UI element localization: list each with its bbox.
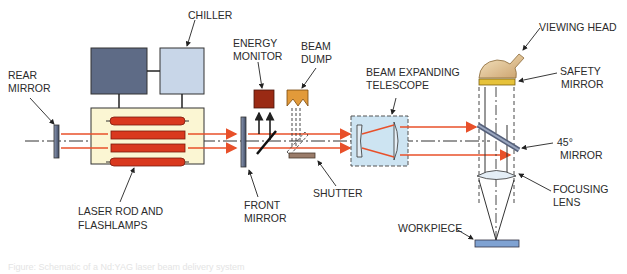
laser-system-diagram: CHILLER REAR MIRROR LASER ROD AND FLASHL… xyxy=(0,0,627,274)
label-focusing-lens-2: LENS xyxy=(553,196,580,208)
label-rear-mirror-2: MIRROR xyxy=(8,82,51,94)
label-workpiece: WORKPIECE xyxy=(398,222,462,234)
label-telescope-2: TELESCOPE xyxy=(366,79,429,91)
label-45-mirror-2: MIRROR xyxy=(560,149,603,161)
focusing-lens xyxy=(477,171,516,180)
chiller-box xyxy=(160,48,204,94)
label-safety-mirror-1: SAFETY xyxy=(560,65,601,77)
label-laser-rod-2: FLASHLAMPS xyxy=(78,219,147,231)
label-chiller: CHILLER xyxy=(188,9,233,21)
label-45-mirror-1: 45° xyxy=(557,136,573,148)
shutter xyxy=(289,153,315,158)
laser-rod-lower xyxy=(111,144,185,152)
figure-caption: Figure: Schematic of a Nd:YAG laser beam… xyxy=(8,262,244,272)
power-supply-box xyxy=(91,48,147,94)
label-energy-monitor-1: ENERGY xyxy=(233,37,277,49)
label-shutter: SHUTTER xyxy=(313,187,363,199)
label-viewing-head: VIEWING HEAD xyxy=(539,21,617,33)
label-beam-dump-1: BEAM xyxy=(301,40,331,52)
energy-monitor xyxy=(254,90,274,108)
label-rear-mirror-1: REAR xyxy=(8,69,38,81)
label-focusing-lens-1: FOCUSING xyxy=(553,183,608,195)
front-mirror xyxy=(241,117,246,167)
label-front-mirror-1: FRONT xyxy=(244,199,281,211)
label-safety-mirror-2: MIRROR xyxy=(561,78,604,90)
beam-dump xyxy=(287,90,308,106)
label-front-mirror-2: MIRROR xyxy=(244,212,287,224)
rear-mirror xyxy=(54,125,59,158)
workpiece xyxy=(475,240,519,247)
label-beam-dump-2: DUMP xyxy=(301,53,332,65)
safety-mirror xyxy=(479,79,515,85)
label-telescope-1: BEAM EXPANDING xyxy=(366,66,460,78)
label-energy-monitor-2: MONITOR xyxy=(233,50,283,62)
flashlamp-bottom xyxy=(110,158,185,166)
flashlamp-top xyxy=(110,117,185,125)
label-laser-rod-1: LASER ROD AND xyxy=(78,205,164,217)
viewing-head xyxy=(479,54,524,78)
laser-rod-upper xyxy=(111,131,185,139)
